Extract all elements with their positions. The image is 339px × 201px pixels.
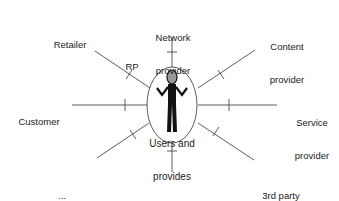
- role-broker: Broker: [148, 181, 198, 201]
- role-retailer: Retailer: [45, 17, 95, 61]
- spoke-retailer: [95, 51, 150, 88]
- role-network: Network provider: [148, 10, 198, 87]
- role-customer: Customer: [14, 94, 64, 138]
- spoke-content: [198, 50, 255, 88]
- spoke-third-party: [198, 123, 254, 160]
- role-content: Content provider: [262, 19, 312, 96]
- role-more: ...: [56, 168, 68, 201]
- role-service: Service provider: [287, 95, 337, 172]
- spoke-more: [97, 123, 149, 158]
- reference-point-label: RP: [124, 61, 140, 72]
- role-third-party: 3rd party provider: [256, 168, 306, 201]
